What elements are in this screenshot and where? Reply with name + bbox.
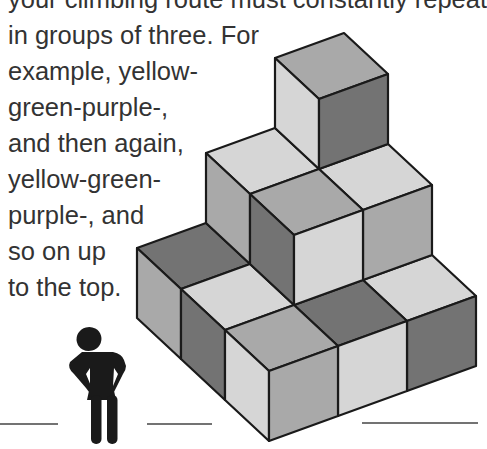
person-left-leg <box>91 395 102 444</box>
cube-staircase <box>137 33 476 441</box>
person-icon <box>69 324 126 444</box>
person-right-leg <box>107 395 118 444</box>
ground-lines <box>0 423 478 424</box>
person-head <box>74 324 104 354</box>
cube-staircase-illustration <box>0 0 487 449</box>
person-torso <box>69 352 126 400</box>
